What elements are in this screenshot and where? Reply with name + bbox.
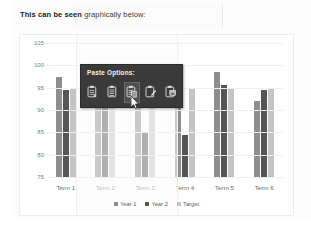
paste-option-merge-formatting[interactable] bbox=[143, 82, 159, 103]
chart-gridline bbox=[46, 110, 284, 111]
mouse-cursor-icon bbox=[131, 96, 140, 109]
chart-bar bbox=[261, 90, 267, 177]
chart-x-tick-label: Term 1 bbox=[46, 184, 86, 191]
chart-y-tick-label: 80 bbox=[22, 152, 44, 158]
chart-legend-item: Target bbox=[177, 201, 199, 207]
chart-x-tick-label: Term 5 bbox=[205, 184, 245, 191]
intro-regular-text: graphically below: bbox=[82, 10, 146, 19]
chart-legend-label: Target bbox=[183, 201, 199, 207]
chart-bars-layer: Term 1Term 2Term 3Term 4Term 5Term 6 bbox=[46, 35, 284, 215]
chart-x-tick-label: Term 4 bbox=[165, 184, 205, 191]
chart-x-tick-label: Term 2 bbox=[86, 184, 126, 191]
document-page: This can be seen graphically below: 7580… bbox=[0, 0, 311, 225]
chart-container[interactable]: 7580859095100105 Term 1Term 2Term 3Term … bbox=[19, 34, 294, 216]
chart-bar bbox=[56, 77, 62, 178]
chart-legend-swatch bbox=[114, 202, 118, 206]
chart-legend-item: Year 2 bbox=[145, 201, 168, 207]
page-bottom-edge bbox=[0, 218, 311, 225]
chart-y-tick-label: 75 bbox=[22, 174, 44, 180]
svg-text:A: A bbox=[93, 93, 96, 98]
clipboard-text-only-icon bbox=[107, 85, 119, 99]
chart-gridline bbox=[46, 43, 284, 44]
chart-x-tick-label: Term 3 bbox=[125, 184, 165, 191]
chart-bar bbox=[63, 90, 69, 177]
chart-y-tick-label: 100 bbox=[22, 62, 44, 68]
chart-plot-area: 7580859095100105 Term 1Term 2Term 3Term … bbox=[20, 35, 293, 215]
chart-legend: Year 1Year 2Target bbox=[20, 201, 293, 207]
chart-legend-label: Year 2 bbox=[151, 201, 168, 207]
clipboard-source-formatting-icon: A bbox=[87, 85, 99, 99]
chart-bar bbox=[182, 135, 188, 177]
chart-bar bbox=[254, 101, 260, 177]
page-title: This can be seen graphically below: bbox=[20, 10, 146, 19]
chart-legend-swatch bbox=[145, 202, 149, 206]
clipboard-picture-icon bbox=[165, 85, 177, 99]
chart-bar bbox=[221, 85, 227, 177]
chart-legend-item: Year 1 bbox=[114, 201, 137, 207]
chart-legend-label: Year 1 bbox=[120, 201, 137, 207]
chart-y-tick-label: 105 bbox=[22, 40, 44, 46]
chart-gridline bbox=[46, 132, 284, 133]
paste-option-keep-source-formatting[interactable]: A bbox=[85, 82, 101, 103]
chart-gridline bbox=[46, 177, 284, 178]
chart-gridline bbox=[46, 155, 284, 156]
paste-option-picture[interactable] bbox=[163, 82, 179, 103]
clipboard-merge-formatting-icon bbox=[145, 85, 157, 99]
paste-option-keep-text-only[interactable] bbox=[104, 82, 120, 103]
chart-x-tick-label: Term 6 bbox=[244, 184, 284, 191]
paste-options-title: Paste Options: bbox=[87, 69, 135, 76]
intro-bold-text: This can be seen bbox=[20, 10, 82, 19]
chart-y-tick-label: 85 bbox=[22, 129, 44, 135]
chart-legend-swatch bbox=[177, 202, 181, 206]
chart-y-axis: 7580859095100105 bbox=[20, 35, 44, 215]
page-left-margin bbox=[0, 0, 12, 225]
chart-y-tick-label: 90 bbox=[22, 107, 44, 113]
chart-y-tick-label: 95 bbox=[22, 85, 44, 91]
